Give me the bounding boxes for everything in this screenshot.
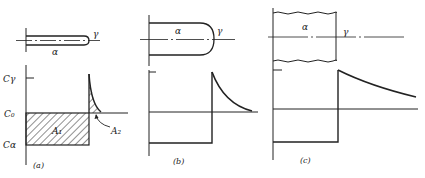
panel-b: α γ (b) [140,15,258,166]
phase-gamma-label: γ [93,29,99,39]
phase-alpha-label: α [302,22,308,32]
alpha-rod [149,23,214,55]
a1-label: A₁ [51,126,62,136]
a2-arrow [96,115,110,127]
panel-b-schematic: α γ [140,15,235,66]
panel-a: α γ Cγ C₀ Cα A₁ A₂ (a) [3,28,128,170]
a2-label: A₂ [110,126,121,136]
panel-a-profile: Cγ C₀ Cα A₁ A₂ (a) [3,65,128,170]
area-a2-region [89,74,100,113]
c-gamma-label: Cγ [3,74,16,84]
phase-gamma-label: γ [343,27,349,37]
caption-c: (c) [300,156,311,165]
wavy-top-edge [273,12,337,14]
panel-b-profile: (b) [149,70,258,166]
panel-c-schematic: α γ [268,8,405,160]
wavy-bottom-edge [273,60,337,62]
panel-c-profile: (c) [273,70,418,165]
caption-a: (a) [33,161,44,170]
phase-alpha-label: α [175,26,181,36]
caption-b: (b) [173,157,184,166]
diffusion-diagram: α γ Cγ C₀ Cα A₁ A₂ (a) α γ [0,0,425,178]
phase-alpha-label: α [52,47,58,57]
c0-label: C₀ [4,109,15,119]
phase-gamma-label: γ [217,26,223,36]
panel-c: α γ (c) [268,8,418,165]
c-alpha-label: Cα [3,140,16,150]
panel-a-schematic: α γ [16,28,100,57]
